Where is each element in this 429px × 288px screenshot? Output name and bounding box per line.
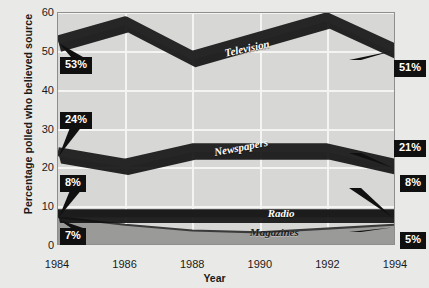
callout-television-1984: 53% [60, 57, 92, 74]
x-tick-1994: 1994 [383, 258, 407, 270]
y-axis-tick-labels: 0102030405060 [8, 0, 54, 288]
line-chart: Percentage polled who believed source 01… [0, 0, 429, 288]
x-axis-title: Year [0, 272, 429, 284]
callout-television-1994: 51% [394, 60, 426, 77]
callout-newspapers-1984: 24% [60, 112, 92, 129]
y-tick-50: 50 [10, 45, 54, 57]
x-tick-1992: 1992 [315, 258, 339, 270]
y-tick-60: 60 [10, 6, 54, 18]
callout-radio-1984: 8% [60, 175, 86, 192]
x-tick-1986: 1986 [112, 258, 136, 270]
y-tick-40: 40 [10, 84, 54, 96]
x-tick-1988: 1988 [180, 258, 204, 270]
series-newspapers [58, 148, 394, 175]
y-tick-0: 0 [10, 239, 54, 251]
y-tick-10: 10 [10, 200, 54, 212]
series-radio [58, 213, 394, 223]
callout-magazines-1994: 5% [400, 232, 426, 249]
y-tick-20: 20 [10, 161, 54, 173]
y-tick-30: 30 [10, 123, 54, 135]
plot-area: TelevisionNewspapersRadioMagazines [57, 12, 395, 245]
callout-radio-1994: 8% [400, 175, 426, 192]
series-ribbons [58, 13, 394, 244]
callout-magazines-1984: 7% [60, 228, 86, 245]
x-tick-1984: 1984 [45, 258, 69, 270]
x-tick-1990: 1990 [248, 258, 272, 270]
series-television [58, 17, 394, 67]
callout-newspapers-1994: 21% [394, 140, 426, 157]
